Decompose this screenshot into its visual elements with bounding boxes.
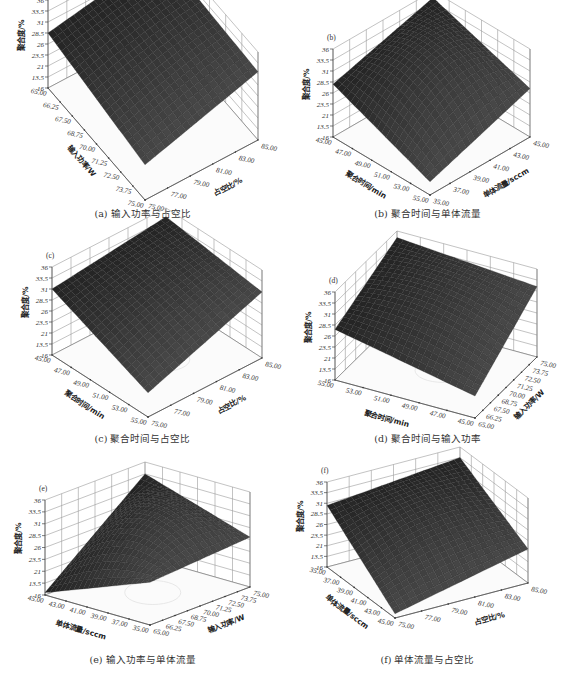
z-axis-title: 聚合度/% [20, 286, 30, 319]
y-tick [449, 183, 451, 185]
y-tick [528, 364, 530, 366]
x-tick-label: 45.00 [34, 354, 52, 365]
z-tick-label: 26 [322, 90, 330, 98]
z-tick-label: 33.5 [318, 300, 332, 308]
figure-grid: 3633.53128.52623.52113.516聚合度/%(a)65.006… [0, 0, 571, 676]
surface-plot-a: 3633.53128.52623.52113.516聚合度/%(a)65.006… [0, 0, 285, 205]
y-tick-label: 83.00 [242, 372, 260, 383]
y-tick [261, 357, 263, 359]
x-tick [107, 612, 109, 614]
y-tick [421, 610, 423, 612]
y-tick-label: 81.00 [477, 599, 495, 610]
x-tick [84, 129, 86, 131]
z-tick-label: 13.5 [317, 123, 330, 131]
x-tick-label: 37.00 [110, 618, 129, 629]
z-tick-label: 28.5 [36, 297, 49, 305]
y-tick [162, 619, 164, 621]
y-tick [189, 175, 191, 177]
surface-plot-b: 3633.53128.52623.52113.516聚合度/%(b)45.004… [285, 0, 570, 205]
x-tick-label: 65.00 [30, 87, 48, 98]
x-tick-label: 55.00 [130, 416, 148, 427]
x-tick [59, 101, 61, 103]
caption-d: (d) 聚合时间与输入功率 [285, 431, 570, 445]
z-tick-label: 36 [36, 0, 45, 5]
x-tick-label: 43.00 [48, 600, 66, 611]
x-tick [381, 607, 383, 609]
panel-c: 3633.53128.52623.52113.516聚合度/%(c)45.004… [0, 225, 285, 450]
z-tick-label: 33.5 [28, 508, 42, 516]
y-tick [429, 194, 431, 196]
z-tick-label: 21 [324, 355, 331, 363]
panel-letter: (c) [46, 251, 55, 260]
z-axis-title: 聚合度/% [295, 500, 305, 533]
x-tick [390, 171, 392, 173]
y-tick [216, 381, 218, 383]
z-tick-label: 26 [37, 41, 45, 49]
y-tick-label: 79.00 [451, 606, 469, 617]
y-tick [482, 410, 484, 412]
y-tick-label: 37.00 [452, 185, 471, 196]
z-axis-title: 聚合度/% [303, 311, 313, 344]
y-tick [513, 379, 515, 381]
y-tick [527, 582, 529, 584]
x-tick-label: 55.00 [412, 194, 430, 205]
x-tick-label: 49.00 [354, 159, 372, 170]
z-tick-label: 13.5 [29, 580, 42, 588]
y-tick-label: 39.00 [472, 174, 491, 185]
x-tick [362, 387, 364, 389]
surface-mesh [45, 474, 250, 593]
y-tick [257, 139, 259, 141]
y-tick [238, 369, 240, 371]
x-tick [128, 404, 130, 406]
y-tick [212, 600, 214, 602]
z-axis-title: 聚合度/% [13, 522, 23, 555]
x-tick-label: 73.75 [115, 185, 133, 196]
y-tick-label: 81.00 [219, 384, 237, 395]
caption-c: (c) 聚合时间与占空比 [0, 431, 285, 445]
z-tick-label: 31 [315, 500, 323, 508]
z-tick-label: 31 [321, 68, 329, 76]
y-tick [187, 610, 189, 612]
y-tick [235, 151, 237, 153]
x-tick [446, 410, 448, 412]
y-tick [447, 603, 449, 605]
y-tick-label: 77.00 [173, 407, 191, 418]
x-tick-label: 67.50 [54, 115, 72, 126]
y-tick [167, 187, 169, 189]
x-tick [96, 143, 98, 145]
y-tick [174, 615, 176, 617]
x-tick [47, 87, 49, 89]
caption-e: (e) 输入功率与单体流量 [0, 652, 285, 666]
z-tick-label: 31 [40, 286, 48, 294]
z-tick-label: 13.5 [36, 341, 49, 349]
x-tick [353, 587, 355, 589]
x-tick [70, 367, 72, 369]
y-tick [394, 617, 396, 619]
z-tick-label: 26 [34, 544, 42, 552]
y-tick [149, 624, 151, 626]
y-tick [170, 404, 172, 406]
x-tick-label: 35.00 [131, 624, 150, 635]
y-tick-label: 79.00 [193, 178, 211, 189]
x-tick [120, 171, 122, 173]
z-tick-label: 23.5 [29, 556, 42, 564]
y-tick [489, 159, 491, 161]
surface-plot-d: 3633.53128.52623.52113.516聚合度/%(d)55.005… [285, 225, 570, 430]
y-tick-label: 77.00 [424, 613, 442, 624]
y-axis-title: 占空比/% [215, 392, 248, 415]
z-tick-label: 21 [41, 330, 48, 338]
panel-f: 3633.53128.52623.52113.516聚合度/%(f)35.003… [285, 450, 570, 675]
y-tick-label: 79.00 [196, 396, 214, 407]
x-tick [410, 183, 412, 185]
y-tick-label: 85.00 [265, 360, 283, 371]
y-tick-label: 41.00 [493, 162, 511, 173]
y-tick [509, 148, 511, 150]
x-tick [332, 136, 334, 138]
z-tick-label: 36 [315, 479, 324, 487]
y-tick [193, 393, 195, 395]
z-tick-label: 26 [316, 521, 324, 529]
panel-a: 3633.53128.52623.52113.516聚合度/%(a)65.006… [0, 0, 285, 225]
y-tick-label: 83.00 [504, 592, 522, 603]
y-tick-label: 83.00 [238, 154, 256, 165]
z-tick-label: 26 [41, 308, 49, 316]
